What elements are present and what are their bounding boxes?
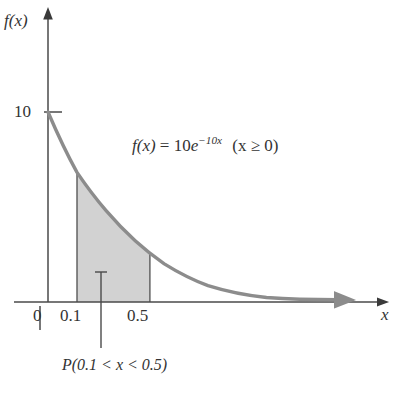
plot-canvas	[0, 0, 406, 394]
shaded-probability-region	[77, 172, 150, 302]
y-axis-label: f(x)	[4, 12, 28, 29]
x-tick-label-0-5: 0.5	[127, 307, 148, 324]
formula-lhs: f(x)	[132, 136, 156, 155]
formula-equals: =	[160, 136, 170, 155]
probability-annotation: P(0.1 < x < 0.5)	[62, 357, 167, 373]
x-axis-label: x	[381, 306, 389, 323]
formula-domain: (x ≥ 0)	[232, 136, 278, 155]
exponential-distribution-figure: f(x) x 10 0 0.1 0.5 f(x) = 10e−10x (x ≥ …	[0, 0, 406, 394]
y-tick-label-10: 10	[14, 103, 31, 120]
function-annotation: f(x) = 10e−10x (x ≥ 0)	[132, 137, 278, 154]
x-tick-label-0: 0	[33, 307, 42, 324]
formula-exponent: −10x	[198, 134, 222, 146]
formula-coefficient: 10	[174, 136, 191, 155]
x-tick-label-0-1: 0.1	[60, 307, 81, 324]
